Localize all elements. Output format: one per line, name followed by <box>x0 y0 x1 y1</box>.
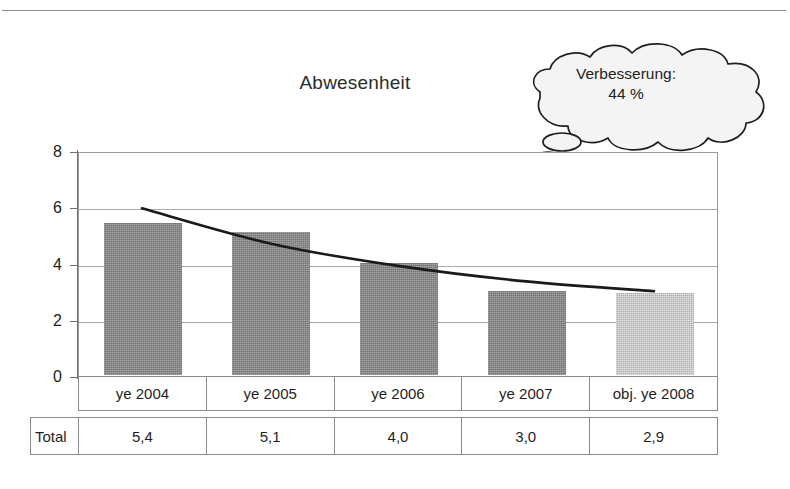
category-label-ye-2007: ye 2007 <box>462 377 590 410</box>
y-axis-tick-0 <box>70 377 78 378</box>
y-axis-tick-4 <box>70 265 78 266</box>
category-label-ye-2006: ye 2006 <box>335 377 463 410</box>
data-cell-ye-2004: 5,4 <box>79 418 207 454</box>
y-axis-label-6: 6 <box>16 199 62 217</box>
bar-ye-2004 <box>104 223 182 375</box>
bar-ye-2005 <box>232 232 310 375</box>
category-label-ye-2004: ye 2004 <box>79 377 207 410</box>
chart-title: Abwesenheit <box>255 72 455 94</box>
plot-area <box>78 152 718 377</box>
bar-ye-2006 <box>360 263 438 376</box>
category-axis-row: ye 2004 ye 2005 ye 2006 ye 2007 obj. ye … <box>78 377 718 411</box>
bar-ye-2007 <box>488 291 566 375</box>
y-axis-tick-2 <box>70 321 78 322</box>
page-top-rule <box>2 10 786 11</box>
bar-obj-ye-2008 <box>616 293 694 375</box>
y-axis-label-8: 8 <box>16 143 62 161</box>
data-cell-ye-2006: 4,0 <box>335 418 463 454</box>
data-table-row-header: Total <box>31 418 79 454</box>
category-label-obj-ye-2008: obj. ye 2008 <box>590 377 717 410</box>
y-axis-label-0: 0 <box>16 368 62 386</box>
category-label-ye-2005: ye 2005 <box>207 377 335 410</box>
data-cell-ye-2007: 3,0 <box>462 418 590 454</box>
y-axis-label-2: 2 <box>16 312 62 330</box>
chart-page: Abwesenheit Verbesserung: 44 % 8 6 4 2 0 <box>0 0 790 489</box>
data-cell-obj-ye-2008: 2,9 <box>590 418 717 454</box>
y-axis-label-4: 4 <box>16 256 62 274</box>
data-cell-ye-2005: 5,1 <box>207 418 335 454</box>
data-table: Total 5,4 5,1 4,0 3,0 2,9 <box>30 417 718 455</box>
y-axis-tick-8 <box>70 152 78 153</box>
y-axis-tick-6 <box>70 208 78 209</box>
gridline-6 <box>79 209 717 210</box>
